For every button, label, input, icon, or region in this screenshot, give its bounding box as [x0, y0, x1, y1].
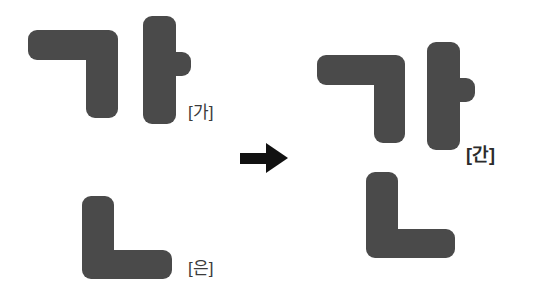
arrow-shaft: [240, 153, 268, 164]
nieun-horizontal-stroke: [366, 229, 455, 258]
giyeok-vertical-stroke: [374, 81, 405, 143]
label-result: [간]: [466, 140, 495, 166]
nieun-horizontal-stroke: [82, 250, 172, 279]
diagram-canvas: [가] [은] [간]: [0, 0, 545, 302]
arrow-head-icon: [266, 143, 288, 173]
giyeok-vertical-stroke: [86, 56, 118, 118]
transform-arrow: [240, 143, 290, 173]
label-source-top: [가]: [188, 98, 213, 123]
giyeok-horizontal-stroke: [317, 55, 405, 85]
vowel-a-branch-stroke: [170, 52, 191, 76]
vowel-a-branch-stroke: [454, 78, 475, 102]
nieun-vertical-stroke: [366, 172, 398, 230]
giyeok-horizontal-stroke: [28, 30, 118, 60]
label-source-bottom: [은]: [188, 254, 213, 279]
nieun-vertical-stroke: [82, 196, 114, 254]
vowel-a-stem-stroke: [427, 42, 460, 150]
vowel-a-stem-stroke: [143, 16, 176, 124]
